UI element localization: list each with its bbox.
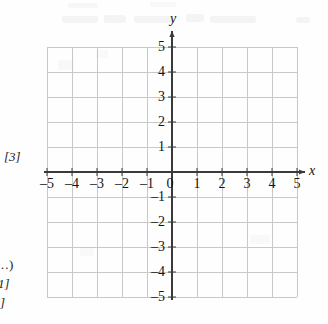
y-tick-label: –1 — [139, 190, 165, 204]
worksheet-page: [3] …) 1] s] — [0, 0, 328, 324]
y-tick-label: 3 — [139, 90, 165, 104]
x-tick-label: –3 — [84, 177, 110, 191]
x-tick-label: 5 — [284, 177, 310, 191]
x-tick-label: –5 — [34, 177, 60, 191]
y-tick-label: 4 — [139, 65, 165, 79]
y-tick-label: –4 — [139, 265, 165, 279]
x-tick-label: 3 — [234, 177, 260, 191]
x-tick-label: –2 — [109, 177, 135, 191]
y-tick-label: 5 — [139, 40, 165, 54]
x-axis — [44, 168, 305, 176]
coordinate-grid[interactable] — [47, 47, 297, 297]
y-axis-label: y — [170, 12, 176, 26]
y-axis — [168, 31, 176, 300]
x-tick-label: –4 — [59, 177, 85, 191]
x-tick-label: 1 — [184, 177, 210, 191]
y-tick-label: –2 — [139, 215, 165, 229]
y-tick-label: 2 — [139, 115, 165, 129]
y-tick-label: –3 — [139, 240, 165, 254]
y-tick-label: –5 — [139, 290, 165, 304]
x-tick-label: 4 — [259, 177, 285, 191]
x-axis-label: x — [309, 164, 315, 178]
x-tick-label: 2 — [209, 177, 235, 191]
y-tick-label: 1 — [139, 140, 165, 154]
